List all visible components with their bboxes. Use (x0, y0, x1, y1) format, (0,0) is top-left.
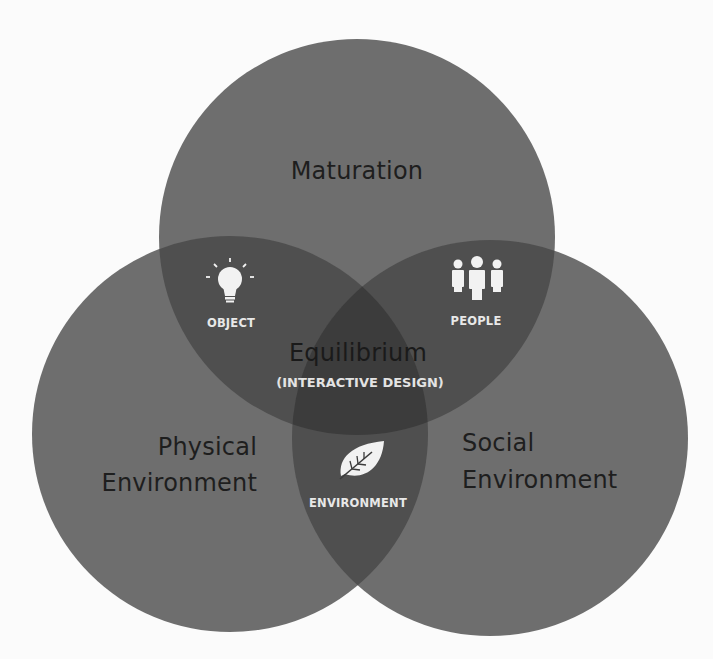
label-interactive-design: (INTERACTIVE DESIGN) (276, 376, 444, 389)
label-equilibrium: Equilibrium (289, 341, 427, 365)
label-object: OBJECT (207, 318, 255, 330)
venn-circles (0, 0, 713, 659)
venn-diagram: Maturation Physical Environment Social E… (0, 0, 713, 659)
label-maturation: Maturation (291, 159, 424, 183)
label-physical: Physical (158, 435, 257, 459)
label-people: PEOPLE (451, 316, 502, 328)
label-physical-environment: Environment (102, 471, 257, 495)
label-social-environment: Environment (462, 468, 617, 492)
label-social: Social (462, 431, 534, 455)
label-environment: ENVIRONMENT (309, 498, 407, 510)
